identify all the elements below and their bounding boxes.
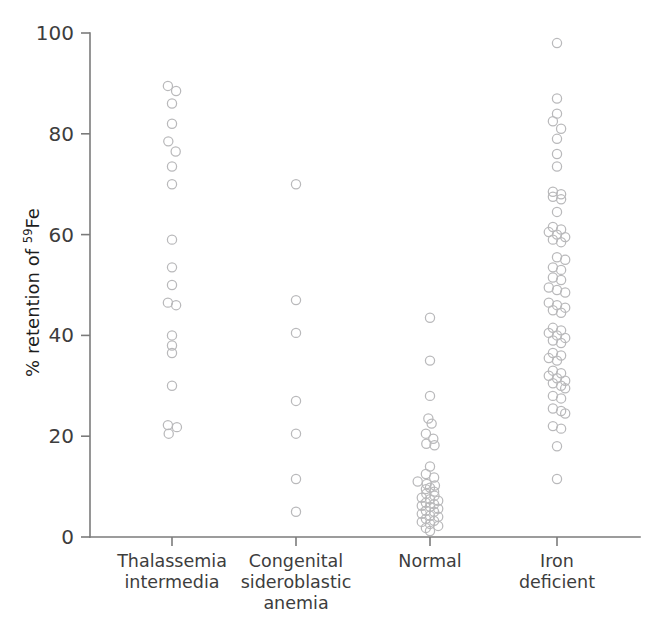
y-tick-label: 80 (49, 122, 74, 146)
data-point (552, 38, 561, 47)
data-point (167, 263, 176, 272)
data-point (425, 313, 434, 322)
x-tick-label-line: anemia (206, 593, 386, 614)
x-axis-ticks (172, 537, 557, 546)
data-point (552, 149, 561, 158)
data-point (557, 124, 566, 133)
data-point (425, 356, 434, 365)
data-point (172, 86, 181, 95)
x-tick-label-line: deficient (467, 572, 647, 593)
y-axis-title-prefix: % retention of (22, 243, 43, 377)
data-point (425, 391, 434, 400)
data-point (552, 474, 561, 483)
y-tick-label: 100 (36, 21, 74, 45)
data-point (171, 147, 180, 156)
data-point (167, 99, 176, 108)
data-point (291, 507, 300, 516)
y-axis-title-superscript: 59 (21, 229, 35, 244)
data-point (561, 255, 570, 264)
data-point (172, 301, 181, 310)
data-point (163, 421, 172, 430)
data-point (167, 180, 176, 189)
y-tick-label: 40 (49, 323, 74, 347)
y-axis-title-suffix: Fe (22, 208, 43, 228)
y-axis-ticks: 020406080100 (36, 21, 90, 549)
data-point (561, 288, 570, 297)
data-point (552, 442, 561, 451)
data-point (552, 134, 561, 143)
data-point (167, 381, 176, 390)
data-point (167, 162, 176, 171)
data-point (557, 424, 566, 433)
data-point (291, 296, 300, 305)
data-point (167, 331, 176, 340)
data-point (167, 235, 176, 244)
data-point (164, 429, 173, 438)
data-point (167, 119, 176, 128)
data-point (167, 280, 176, 289)
data-point (172, 423, 181, 432)
y-tick-label: 20 (49, 424, 74, 448)
x-tick-label-line: sideroblastic (206, 572, 386, 593)
data-point (557, 265, 566, 274)
y-axis-title: % retention of 59Fe (22, 163, 43, 423)
data-point (552, 162, 561, 171)
x-tick-label-line: Iron (467, 551, 647, 572)
data-point (291, 328, 300, 337)
data-point (413, 477, 422, 486)
data-point (164, 137, 173, 146)
data-point (548, 117, 557, 126)
data-point (291, 474, 300, 483)
data-points (163, 38, 570, 535)
data-point (291, 180, 300, 189)
y-tick-label: 0 (61, 525, 74, 549)
data-point (291, 396, 300, 405)
data-point (557, 275, 566, 284)
x-tick-label-3: Irondeficient (467, 551, 647, 593)
figure-container: 020406080100 % retention of 59Fe Thalass… (0, 0, 653, 643)
data-point (291, 429, 300, 438)
data-point (552, 207, 561, 216)
data-point (163, 81, 172, 90)
data-point (552, 94, 561, 103)
data-point (557, 394, 566, 403)
y-tick-label: 60 (49, 223, 74, 247)
scatter-plot: 020406080100 (0, 0, 653, 643)
